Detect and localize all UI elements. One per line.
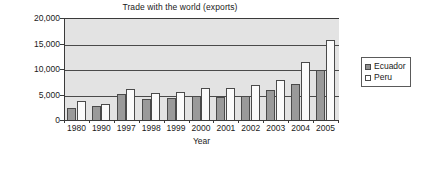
y-tick-label: 10,000: [16, 65, 60, 73]
y-tick-mark: [60, 95, 64, 96]
legend-swatch-peru: [365, 75, 371, 81]
bar-group: [239, 19, 264, 121]
y-tick-mark: [60, 69, 64, 70]
y-tick-label: 5,000: [16, 91, 60, 99]
bar-ecuador-2001: [216, 97, 225, 121]
bar-group: [289, 19, 314, 121]
bar-group: [314, 19, 339, 121]
bar-group: [165, 19, 190, 121]
x-tick-label: 1998: [139, 123, 164, 134]
bar-ecuador-1999: [167, 98, 176, 121]
plot-inner: [65, 19, 339, 121]
bar-ecuador-2002: [241, 96, 250, 121]
y-tick-mark: [60, 44, 64, 45]
bar-peru-1990: [101, 104, 110, 121]
bar-group: [190, 19, 215, 121]
x-tick-label: 2001: [213, 123, 238, 134]
legend-label-peru: Peru: [374, 72, 392, 83]
bar-ecuador-2003: [266, 90, 275, 121]
bar-ecuador-2005: [316, 70, 325, 122]
bar-group: [214, 19, 239, 121]
bar-peru-2001: [226, 88, 235, 121]
x-tick-label: 2003: [263, 123, 288, 134]
bar-ecuador-1997: [117, 94, 126, 121]
bar-peru-1980: [77, 101, 86, 121]
bar-group: [140, 19, 165, 121]
bar-ecuador-2000: [192, 96, 201, 121]
y-tick-label: 0: [16, 116, 60, 124]
chart-figure: Trade with the world (exports) Value (in…: [0, 0, 436, 170]
plot-area: [64, 18, 339, 121]
bar-ecuador-2004: [291, 84, 300, 121]
x-tick-label: 2005: [313, 123, 338, 134]
x-tick-label: 2000: [189, 123, 214, 134]
x-tick-label: 1997: [114, 123, 139, 134]
bar-ecuador-1990: [92, 106, 101, 121]
bar-peru-1999: [176, 92, 185, 121]
y-tick-mark: [60, 18, 64, 19]
bar-ecuador-1998: [142, 99, 151, 121]
legend-label-ecuador: Ecuador: [374, 61, 406, 72]
y-tick-label: 15,000: [16, 40, 60, 48]
x-tick-label: 2002: [238, 123, 263, 134]
bar-group: [115, 19, 140, 121]
legend-swatch-ecuador: [365, 64, 371, 70]
bar-peru-1998: [151, 93, 160, 121]
x-tick-mark: [338, 120, 339, 123]
x-tick-label: 1999: [164, 123, 189, 134]
x-tick-label: 2004: [288, 123, 313, 134]
legend-item-peru: Peru: [365, 72, 406, 83]
bar-group: [264, 19, 289, 121]
x-tick-label: 1980: [64, 123, 89, 134]
bar-peru-2005: [326, 40, 335, 121]
y-tick-label: 20,000: [16, 14, 60, 22]
y-axis-tick-labels: 05,00010,00015,00020,000: [12, 0, 60, 170]
bar-peru-2000: [201, 88, 210, 121]
bar-group: [65, 19, 90, 121]
y-tick-mark: [60, 120, 64, 121]
x-axis-label: Year: [64, 136, 339, 146]
x-tick-label: 1990: [89, 123, 114, 134]
bar-group: [90, 19, 115, 121]
bar-peru-2003: [276, 80, 285, 121]
chart-legend: Ecuador Peru: [361, 57, 411, 87]
legend-item-ecuador: Ecuador: [365, 61, 406, 72]
x-axis-ticks: 1980199019971998199920002001200220032004…: [64, 120, 339, 136]
bar-peru-1997: [126, 89, 135, 121]
bar-peru-2002: [251, 85, 260, 121]
bar-peru-2004: [301, 62, 310, 121]
